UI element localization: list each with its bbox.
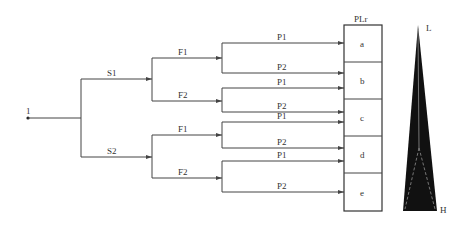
possibility-label: P1 <box>277 77 287 87</box>
severity-label-s2: S2 <box>107 146 117 156</box>
possibility-branch-3: P1 P2 <box>222 111 344 148</box>
risk-scale-triangle: L H <box>403 23 447 215</box>
possibility-label: P2 <box>277 181 287 191</box>
plr-header: PLr <box>354 14 368 24</box>
plr-level-a: a <box>360 39 364 49</box>
risk-graph-diagram: 1 S1 S2 F1 F2 F1 F2 P1 P2 P1 P2 <box>0 0 474 226</box>
plr-table: PLr a b c d e <box>344 14 382 211</box>
severity-branch: S1 S2 <box>81 68 152 157</box>
possibility-branch-4: P1 P2 <box>222 150 344 192</box>
possibility-label: P2 <box>277 101 287 111</box>
possibility-label: P1 <box>277 32 287 42</box>
possibility-label: P2 <box>277 137 287 147</box>
possibility-branch-1: P1 P2 <box>222 32 344 73</box>
possibility-label: P1 <box>277 111 287 121</box>
scale-high-label: H <box>440 205 447 215</box>
frequency-label-f2: F2 <box>178 90 188 100</box>
possibility-branch-2: P1 P2 <box>222 77 344 112</box>
plr-level-d: d <box>360 150 365 160</box>
frequency-branch-s1: F1 F2 <box>152 47 222 101</box>
possibility-label: P2 <box>277 62 287 72</box>
frequency-branch-s2: F1 F2 <box>152 124 222 178</box>
possibility-label: P1 <box>277 150 287 160</box>
plr-level-b: b <box>360 76 365 86</box>
plr-level-e: e <box>360 188 364 198</box>
scale-low-label: L <box>426 23 432 33</box>
frequency-label-f2: F2 <box>178 167 188 177</box>
frequency-label-f1: F1 <box>178 124 188 134</box>
frequency-label-f1: F1 <box>178 47 188 57</box>
start-label: 1 <box>26 106 31 116</box>
risk-wedge-icon <box>403 25 437 211</box>
severity-label-s1: S1 <box>107 68 117 78</box>
start-node: 1 <box>26 106 81 120</box>
plr-level-c: c <box>360 113 364 123</box>
